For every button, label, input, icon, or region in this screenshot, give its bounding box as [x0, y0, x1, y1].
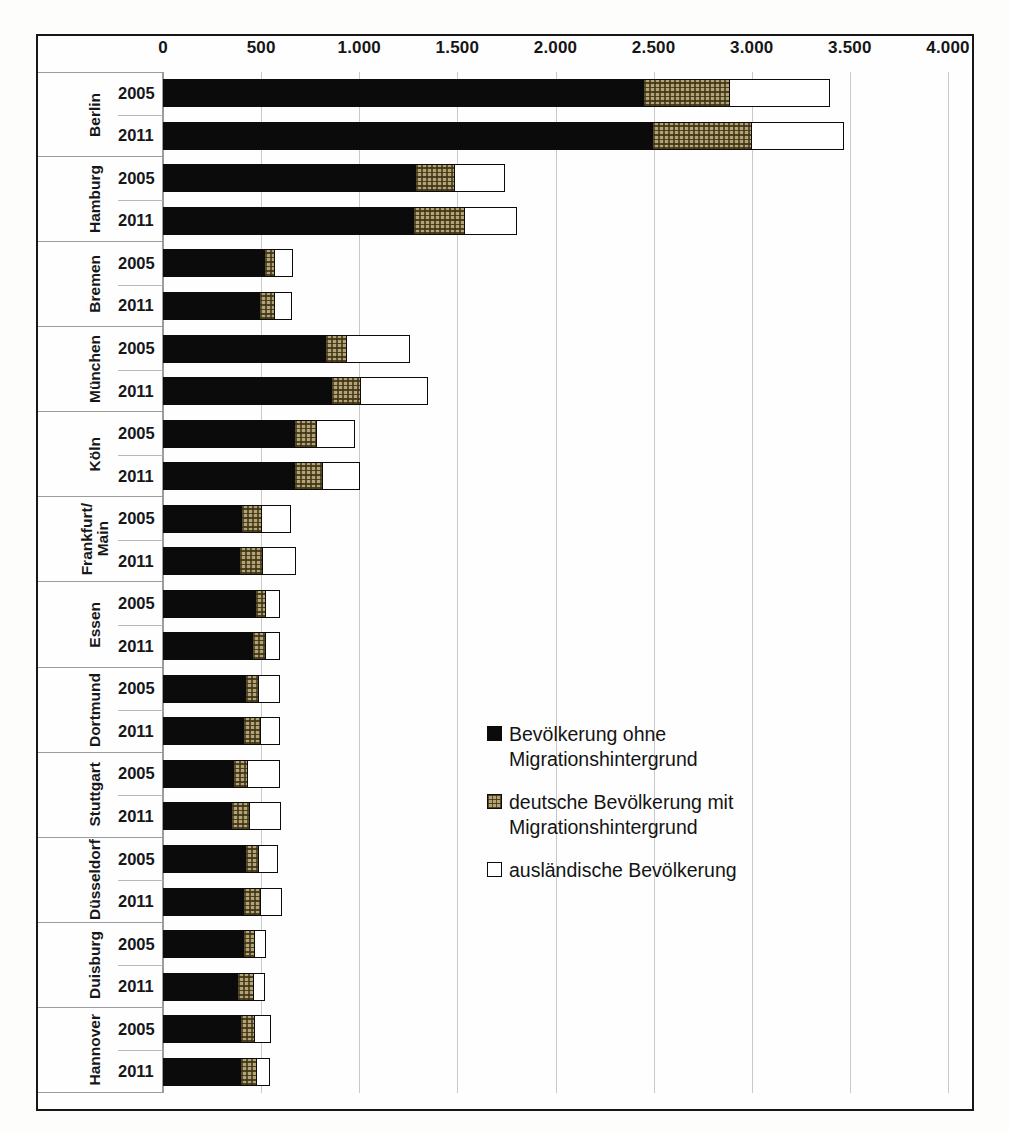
bar-segment-ohne	[163, 79, 644, 107]
stacked-bar	[163, 462, 360, 490]
stacked-bar	[163, 760, 280, 788]
bar-segment-deutsch_mit	[253, 632, 266, 660]
stacked-bar	[163, 420, 355, 448]
bar-segment-auslaendisch	[752, 122, 844, 150]
city-label-text: München	[87, 335, 103, 403]
year-label: 2011	[118, 200, 163, 243]
year-label: 2005	[118, 583, 163, 626]
city-label: Hamburg	[72, 157, 118, 241]
bar-segment-auslaendisch	[266, 632, 280, 660]
bar-segment-deutsch_mit	[256, 590, 266, 618]
bar-segment-deutsch_mit	[234, 760, 248, 788]
bar-segment-ohne	[163, 547, 240, 575]
legend-swatch-icon	[487, 726, 502, 741]
year-label: 2011	[118, 880, 163, 923]
plot-area: Berlin20052011Hamburg20052011Bremen20052…	[38, 72, 972, 1093]
bar-segment-auslaendisch	[254, 973, 265, 1001]
city-label-text: Berlin	[87, 93, 103, 137]
year-label: 2005	[118, 327, 163, 370]
city-label: München	[72, 327, 118, 411]
city-label: Dortmund	[72, 668, 118, 752]
bar-segment-deutsch_mit	[238, 973, 254, 1001]
bar-segment-ohne	[163, 1058, 241, 1086]
bar-segment-ohne	[163, 249, 265, 277]
chart-page: 05001.0001.5002.0002.5003.0003.5004.000 …	[0, 0, 1009, 1132]
legend-swatch-icon	[487, 862, 502, 877]
bar-segment-ohne	[163, 505, 242, 533]
bar-segment-ohne	[163, 760, 234, 788]
bar-segment-ohne	[163, 377, 332, 405]
bar-segment-deutsch_mit	[241, 1058, 257, 1086]
stacked-bar	[163, 79, 830, 107]
x-tick-label: 2.500	[632, 38, 676, 58]
bar-segment-ohne	[163, 845, 246, 873]
bar-segment-deutsch_mit	[244, 930, 255, 958]
year-label: 2011	[118, 285, 163, 328]
x-tick-label: 1.500	[436, 38, 480, 58]
year-label: 2005	[118, 668, 163, 711]
bar-segment-deutsch_mit	[295, 462, 323, 490]
bar-segment-deutsch_mit	[246, 845, 259, 873]
bar-segment-auslaendisch	[250, 802, 281, 830]
x-axis-labels: 05001.0001.5002.0002.5003.0003.5004.000	[38, 36, 972, 72]
bar-segment-ohne	[163, 292, 260, 320]
bar-segment-auslaendisch	[255, 1015, 271, 1043]
stacked-bar	[163, 632, 280, 660]
legend-label: ausländische Bevölkerung	[509, 858, 737, 883]
bar-segment-deutsch_mit	[653, 122, 752, 150]
bar-segment-auslaendisch	[347, 335, 410, 363]
bar-segment-deutsch_mit	[242, 505, 262, 533]
bar-segment-auslaendisch	[455, 164, 505, 192]
bar-segment-deutsch_mit	[295, 420, 317, 448]
stacked-bar	[163, 590, 280, 618]
legend-item: ausländische Bevölkerung	[487, 858, 837, 883]
gridline	[556, 72, 557, 1093]
year-label: 2011	[118, 540, 163, 583]
bar-segment-ohne	[163, 930, 244, 958]
bar-segment-auslaendisch	[262, 505, 291, 533]
city-label-text: Hannover	[87, 1014, 103, 1086]
year-label: 2005	[118, 72, 163, 115]
legend-item: deutsche Bevölkerung mit Migrationshinte…	[487, 790, 837, 839]
bar-segment-deutsch_mit	[232, 802, 250, 830]
city-label-text: Hamburg	[87, 165, 103, 233]
category-column: Berlin20052011Hamburg20052011Bremen20052…	[38, 72, 163, 1093]
bar-segment-ohne	[163, 164, 416, 192]
bar-segment-ohne	[163, 420, 295, 448]
city-label: Berlin	[72, 73, 118, 156]
city-label-text: Bremen	[87, 255, 103, 313]
bar-segment-deutsch_mit	[326, 335, 347, 363]
bar-segment-ohne	[163, 888, 244, 916]
bar-segment-auslaendisch	[261, 888, 282, 916]
stacked-bar	[163, 675, 280, 703]
bar-segment-auslaendisch	[465, 207, 517, 235]
year-label: 2005	[118, 923, 163, 966]
gridline	[752, 72, 753, 1093]
stacked-bar	[163, 207, 517, 235]
year-label: 2011	[118, 115, 163, 158]
stacked-bar	[163, 335, 410, 363]
city-label-text: Stuttgart	[87, 762, 103, 827]
legend-item: Bevölkerung ohne Migrationshintergrund	[487, 722, 837, 771]
bar-segment-auslaendisch	[248, 760, 280, 788]
gridline	[948, 72, 949, 1093]
city-label: Essen	[72, 583, 118, 667]
year-label: 2011	[118, 370, 163, 413]
bar-segment-deutsch_mit	[414, 207, 465, 235]
year-label: 2005	[118, 1008, 163, 1051]
bar-segment-ohne	[163, 632, 253, 660]
bar-segment-deutsch_mit	[260, 292, 275, 320]
bar-segment-deutsch_mit	[240, 547, 263, 575]
bar-segment-auslaendisch	[257, 1058, 270, 1086]
city-label: Düsseldorf	[72, 838, 118, 922]
year-label: 2005	[118, 838, 163, 881]
bar-segment-auslaendisch	[730, 79, 830, 107]
x-tick-label: 500	[247, 38, 276, 58]
bar-segment-ohne	[163, 1015, 241, 1043]
stacked-bar	[163, 164, 505, 192]
city-label-text: Essen	[87, 602, 103, 648]
city-label-text: Duisburg	[87, 931, 103, 999]
year-label: 2005	[118, 497, 163, 540]
year-label: 2005	[118, 157, 163, 200]
stacked-bar	[163, 888, 282, 916]
